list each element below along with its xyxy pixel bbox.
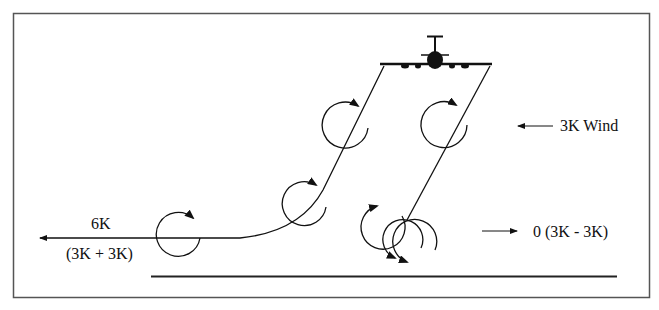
aircraft-icon xyxy=(380,37,492,70)
wake-vortex-diagram: 3K Wind 0 (3K - 3K) 6K (3K + 3K) xyxy=(0,0,659,310)
six-k-label: 6K xyxy=(91,215,111,232)
vortex-rotation-icon xyxy=(421,102,467,148)
wind-label: 3K Wind xyxy=(560,117,618,134)
vortex-rotation-icon xyxy=(282,182,326,226)
zero-drift-label: 0 (3K - 3K) xyxy=(533,223,608,241)
six-k-formula-label: (3K + 3K) xyxy=(66,245,133,263)
vortex-cluster xyxy=(361,206,437,262)
vortex-rotation-icon xyxy=(322,102,368,148)
left-vortex-trail xyxy=(40,66,384,238)
vortex-rotation-icon xyxy=(156,212,200,256)
right-vortex-trail xyxy=(407,66,490,220)
